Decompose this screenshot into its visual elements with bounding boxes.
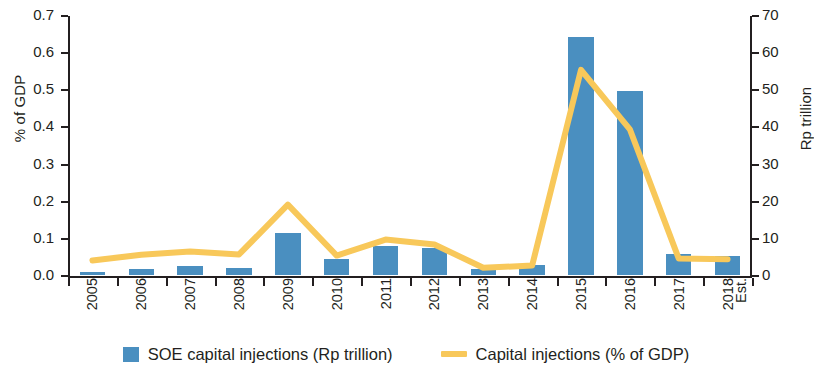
left-tick-label: 0.3 (8, 155, 54, 172)
right-tick-label: 50 (762, 80, 808, 97)
right-tick-label: 0 (762, 266, 808, 283)
x-label-group: 2015 (574, 278, 588, 336)
left-tickmark (61, 126, 68, 128)
x-axis-label: 2016 (622, 278, 638, 334)
left-tickmark (61, 52, 68, 54)
right-tickmark (752, 238, 759, 240)
line-series (68, 16, 752, 278)
right-tick-label: 30 (762, 155, 808, 172)
x-axis-label: 2011 (378, 278, 394, 334)
right-tick-label: 10 (762, 229, 808, 246)
plot-area (68, 16, 752, 277)
left-tickmark (61, 238, 68, 240)
left-tick-label: 0.0 (8, 266, 54, 283)
right-tickmark (752, 52, 759, 54)
right-axis-tick-labels: 010203040506070 (762, 0, 808, 371)
x-axis-sublabel: Est. (733, 278, 749, 334)
legend-label-line: Capital injections (% of GDP) (476, 345, 690, 364)
right-tick-label: 70 (762, 6, 808, 23)
x-label-group: 2008 (232, 278, 246, 336)
left-tickmark (61, 15, 68, 17)
x-axis-label: 2013 (475, 278, 491, 334)
x-axis-label: 2009 (280, 278, 296, 334)
legend-item-line: Capital injections (% of GDP) (441, 345, 690, 364)
left-tickmark (61, 201, 68, 203)
x-label-group: 2009 (281, 278, 295, 336)
x-label-group: 2005 (85, 278, 99, 336)
legend-item-bar: SOE capital injections (Rp trillion) (123, 345, 393, 364)
x-label-group: 2006 (134, 278, 148, 336)
left-tick-label: 0.6 (8, 43, 54, 60)
x-label-group: 2012 (427, 278, 441, 336)
right-tick-label: 60 (762, 43, 808, 60)
chart-legend: SOE capital injections (Rp trillion) Cap… (0, 340, 812, 368)
right-tick-label: 40 (762, 117, 808, 134)
x-label-group: 2013 (476, 278, 490, 336)
x-label-group: 2018Est. (721, 278, 735, 336)
legend-bar-swatch-icon (123, 347, 139, 362)
left-tick-label: 0.7 (8, 6, 54, 23)
x-axis-label: 2017 (671, 278, 687, 334)
left-tick-label: 0.1 (8, 229, 54, 246)
left-tickmark (61, 89, 68, 91)
x-axis-label: 2014 (524, 278, 540, 334)
x-axis-label: 2012 (426, 278, 442, 334)
x-axis-category-labels: 2005200620072008200920102011201220132014… (68, 278, 752, 336)
x-axis-label: 2006 (133, 278, 149, 334)
left-tickmark (61, 275, 68, 277)
right-tickmark (752, 126, 759, 128)
left-axis-tick-labels: 0.00.10.20.30.40.50.60.7 (8, 0, 54, 371)
x-axis-label: 2015 (573, 278, 589, 334)
left-tickmark (61, 164, 68, 166)
x-label-group: 2014 (525, 278, 539, 336)
right-tickmark (752, 201, 759, 203)
x-label-group: 2011 (379, 278, 393, 336)
right-tickmark (752, 164, 759, 166)
x-axis-label: 2005 (84, 278, 100, 334)
legend-line-swatch-icon (441, 351, 467, 357)
x-label-group: 2010 (330, 278, 344, 336)
x-tickmark (752, 278, 754, 286)
x-axis-label: 2008 (231, 278, 247, 334)
capital-injections-line (92, 70, 727, 268)
left-tick-label: 0.4 (8, 117, 54, 134)
left-tick-label: 0.5 (8, 80, 54, 97)
right-tickmark (752, 15, 759, 17)
x-label-group: 2007 (183, 278, 197, 336)
x-axis-label: 2010 (329, 278, 345, 334)
x-axis-label: 2007 (182, 278, 198, 334)
left-tick-label: 0.2 (8, 192, 54, 209)
right-tickmark (752, 89, 759, 91)
x-label-group: 2017 (672, 278, 686, 336)
legend-label-bar: SOE capital injections (Rp trillion) (148, 345, 393, 364)
right-tick-label: 20 (762, 192, 808, 209)
right-tickmark (752, 275, 759, 277)
x-label-group: 2016 (623, 278, 637, 336)
